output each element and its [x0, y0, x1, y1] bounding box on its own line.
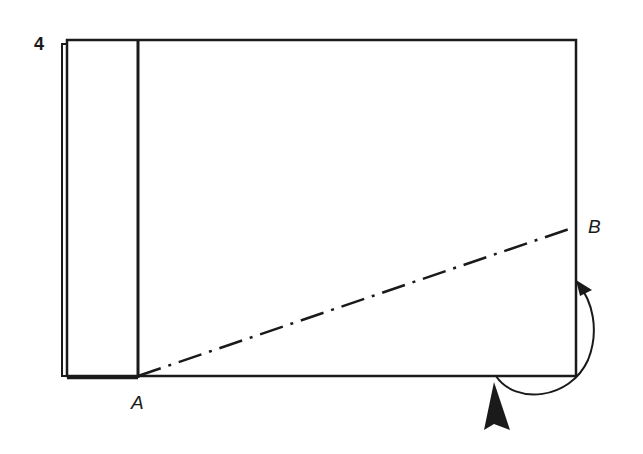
fold-line [138, 228, 572, 376]
paper-sheet [67, 40, 576, 376]
fold-diagram [0, 0, 643, 454]
fold-arrow-icon [496, 284, 594, 394]
push-arrow-icon [484, 382, 510, 430]
point-a-label: A [131, 392, 144, 414]
arrowhead-icon [576, 280, 592, 296]
point-b-label: B [588, 216, 601, 238]
